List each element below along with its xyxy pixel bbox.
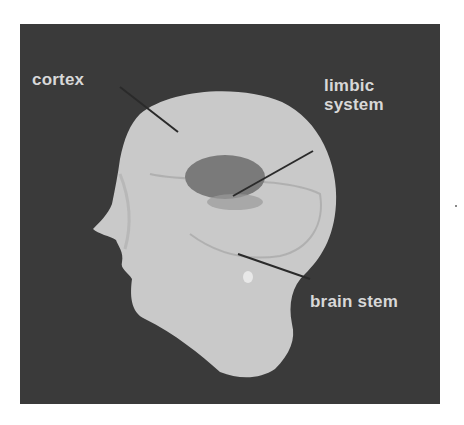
label-cortex: cortex xyxy=(32,70,84,89)
label-cortex-text: cortex xyxy=(32,70,84,89)
label-limbic-system: limbic system xyxy=(324,76,384,114)
label-limbic-line2: system xyxy=(324,95,384,114)
label-brain-stem: brain stem xyxy=(310,292,398,311)
label-brain-stem-text: brain stem xyxy=(310,292,398,311)
label-limbic-line1: limbic xyxy=(324,76,384,95)
stray-dot xyxy=(455,205,457,207)
limbic-region xyxy=(185,155,265,199)
diagram-panel: cortex limbic system brain stem xyxy=(20,24,440,404)
